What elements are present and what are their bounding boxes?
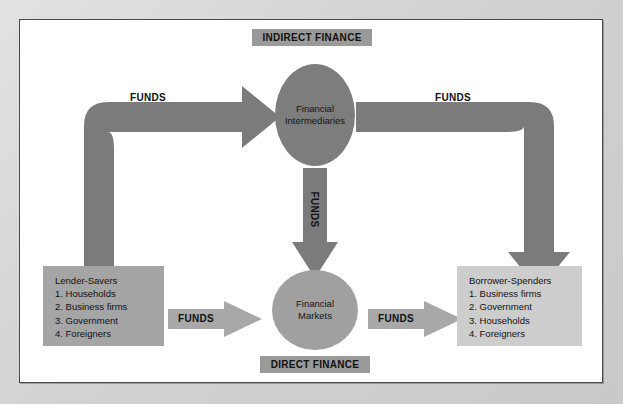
flow-intermediaries-to-borrowers-pipe: [356, 80, 576, 292]
lender-savers-item-3: 3. Government: [55, 314, 154, 327]
node-financial-intermediaries: Financial Intermediaries: [275, 64, 355, 166]
borrower-spenders-item-4: 4. Foreigners: [469, 327, 572, 340]
direct-finance-label: DIRECT FINANCE: [260, 356, 370, 373]
lender-savers-item-4: 4. Foreigners: [55, 327, 154, 340]
lender-savers-item-2: 2. Business firms: [55, 300, 154, 313]
financial-markets-line2: Markets: [298, 310, 332, 323]
borrower-spenders-title: Borrower-Spenders: [469, 274, 572, 287]
financial-intermediaries-line2: Intermediaries: [285, 115, 345, 128]
financial-intermediaries-line1: Financial: [296, 103, 334, 116]
diagram-canvas: INDIRECT FINANCE FUNDS FUNDS Financial I…: [19, 19, 603, 383]
node-financial-markets: Financial Markets: [272, 270, 358, 350]
borrower-spenders-item-2: 2. Government: [469, 300, 572, 313]
borrower-spenders-item-3: 3. Households: [469, 314, 572, 327]
flow-label-intermediaries-to-borrowers: FUNDS: [435, 92, 471, 103]
flow-label-lenders-to-intermediaries: FUNDS: [130, 92, 166, 103]
flow-label-intermediaries-to-markets: FUNDS: [309, 180, 320, 240]
financial-markets-line1: Financial: [296, 298, 334, 311]
flow-label-markets-to-borrowers: FUNDS: [378, 313, 414, 324]
lender-savers-title: Lender-Savers: [55, 274, 154, 287]
borrower-spenders-item-1: 1. Business firms: [469, 287, 572, 300]
indirect-finance-label: INDIRECT FINANCE: [252, 29, 372, 46]
lender-savers-item-1: 1. Households: [55, 287, 154, 300]
node-lender-savers: Lender-Savers 1. Households 2. Business …: [43, 266, 164, 346]
flow-lenders-to-intermediaries-pipe: [64, 80, 284, 290]
diagram-screenshot: INDIRECT FINANCE FUNDS FUNDS Financial I…: [0, 0, 623, 404]
flow-label-lenders-to-markets: FUNDS: [178, 313, 214, 324]
node-borrower-spenders: Borrower-Spenders 1. Business firms 2. G…: [457, 266, 582, 346]
